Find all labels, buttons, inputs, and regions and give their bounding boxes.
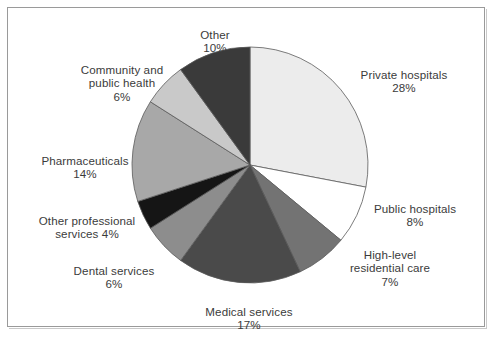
pie-label-high-level-pct: 7%: [325, 275, 455, 289]
pie-label-community-name: Community and public health: [81, 63, 164, 90]
pie-label-private-hospitals: Private hospitals 28%: [334, 54, 474, 108]
pie-label-community-pct: 6%: [52, 90, 192, 104]
pie-label-public-hosp-pct: 8%: [355, 215, 475, 229]
pie-label-dental-name: Dental services: [74, 264, 155, 277]
pie-label-pharmaceuticals: Pharmaceuticals 14%: [20, 140, 150, 194]
pie-label-other-professional-services: Other professional services 4%: [17, 200, 157, 241]
pie-label-pharmaceuticals-name: Pharmaceuticals: [41, 154, 128, 167]
pie-chart-figure: Other 10% Community and public health 6%…: [0, 0, 494, 337]
pie-label-medical-services: Medical services 17%: [184, 291, 314, 337]
pie-label-community-and-public-health: Community and public health 6%: [52, 49, 192, 117]
pie-label-public-hospitals: Public hospitals 8%: [355, 188, 475, 242]
pie-label-other-name: Other: [200, 28, 230, 41]
pie-label-medical-pct: 17%: [184, 318, 314, 332]
pie-label-dental-pct: 6%: [54, 277, 174, 291]
pie-label-private-hosp-name: Private hospitals: [361, 68, 448, 81]
pie-label-other-prof-name: Other professional services 4%: [39, 214, 136, 241]
pie-label-private-hosp-pct: 28%: [334, 81, 474, 95]
pie-label-dental-services: Dental services 6%: [54, 250, 174, 304]
pie-label-high-level-name: High-level residential care: [350, 248, 430, 275]
pie-label-public-hosp-name: Public hospitals: [374, 202, 456, 215]
pie-label-medical-name: Medical services: [205, 305, 292, 318]
pie-label-pharmaceuticals-pct: 14%: [20, 167, 150, 181]
pie-label-high-level-residential-care: High-level residential care 7%: [325, 234, 455, 302]
